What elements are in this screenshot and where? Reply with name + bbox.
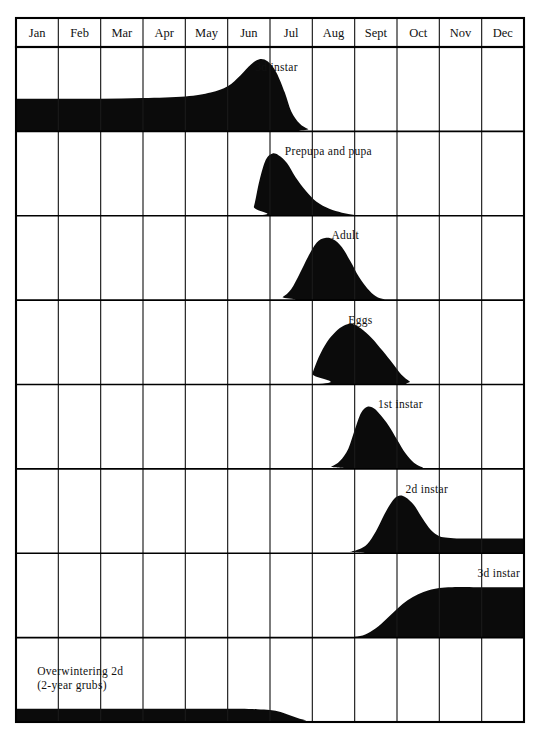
stage-label: 1st instar — [378, 398, 423, 410]
month-header-may: May — [195, 26, 219, 40]
stage-label: Adult — [331, 229, 359, 241]
month-header-nov: Nov — [450, 26, 472, 40]
month-header-jun: Jun — [240, 26, 258, 40]
phenology-chart: JanFebMarAprMayJunJulAugSeptOctNovDec 3d… — [0, 0, 537, 733]
month-header-oct: Oct — [409, 26, 428, 40]
stage-label: 3d instar — [477, 567, 520, 579]
stage-label: Prepupa and pupa — [285, 145, 372, 158]
stage-label: Overwintering 2d — [37, 665, 123, 678]
month-header-sept: Sept — [365, 26, 388, 40]
month-header-dec: Dec — [493, 26, 514, 40]
stage-label-sub: (2-year grubs) — [37, 679, 107, 692]
month-header-feb: Feb — [70, 26, 89, 40]
stage-label: Eggs — [348, 314, 372, 327]
stage-label: 2d instar — [405, 483, 448, 495]
month-header-apr: Apr — [154, 26, 174, 40]
month-header-aug: Aug — [323, 26, 345, 40]
month-header-jan: Jan — [29, 26, 46, 40]
phenology-svg: JanFebMarAprMayJunJulAugSeptOctNovDec 3d… — [0, 0, 537, 733]
stage-label: 3d instar — [255, 61, 298, 73]
month-header-mar: Mar — [111, 26, 133, 40]
month-header-jul: Jul — [284, 26, 299, 40]
